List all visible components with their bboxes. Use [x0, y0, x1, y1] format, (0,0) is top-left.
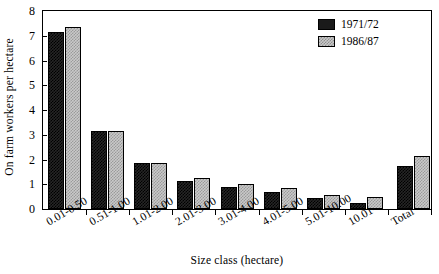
bar-0 — [48, 32, 64, 209]
x-tick-mark — [172, 210, 173, 215]
y-tick-label-text: 5 — [29, 78, 42, 92]
y-tick-label: 7 — [0, 29, 42, 43]
y-tick-label-text: 7 — [29, 29, 42, 43]
x-tick-mark — [302, 210, 303, 215]
y-tick-label: 4 — [0, 103, 42, 117]
x-tick-mark — [388, 210, 389, 215]
bar-0 — [397, 166, 413, 209]
y-tick-label: 3 — [0, 128, 42, 142]
x-tick-mark — [259, 210, 260, 215]
y-tick-label-text: 4 — [29, 103, 42, 117]
x-tick-mark — [215, 210, 216, 215]
x-tick-mark — [431, 210, 432, 215]
y-tick-label: 0 — [0, 202, 42, 216]
bar-0 — [134, 163, 150, 209]
legend-label: 1971/72 — [341, 18, 379, 31]
bar-group — [134, 11, 167, 209]
y-tick-label-text: 3 — [29, 128, 42, 142]
y-tick-label-text: 0 — [29, 202, 42, 216]
bar-0 — [177, 181, 193, 209]
y-tick-label-text: 8 — [29, 4, 42, 18]
legend: 1971/721986/87 — [318, 17, 379, 51]
bar-group — [48, 11, 81, 209]
y-tick-label-text: 2 — [29, 153, 42, 167]
y-tick-label: 5 — [0, 78, 42, 92]
y-tick-label-text: 1 — [29, 177, 42, 191]
bar-group — [221, 11, 254, 209]
bar-chart: On farm workers per hectare 012345678 0.… — [0, 0, 439, 274]
legend-item: 1971/72 — [318, 17, 379, 32]
y-tick-label: 1 — [0, 177, 42, 191]
bar-group — [177, 11, 210, 209]
legend-swatch — [318, 36, 335, 47]
bar-group — [264, 11, 297, 209]
x-tick-mark — [86, 210, 87, 215]
y-tick-label: 6 — [0, 54, 42, 68]
y-tick-label: 8 — [0, 4, 42, 18]
x-tick-mark — [129, 210, 130, 215]
bar-0 — [91, 131, 107, 209]
bar-group — [397, 11, 430, 209]
x-tick-mark — [345, 210, 346, 215]
x-axis-title: Size class (hectare) — [42, 254, 432, 266]
legend-label: 1986/87 — [341, 35, 379, 48]
y-tick-label-text: 6 — [29, 54, 42, 68]
legend-item: 1986/87 — [318, 34, 379, 49]
bar-1 — [65, 27, 81, 209]
legend-swatch — [318, 19, 335, 30]
y-tick-label: 2 — [0, 153, 42, 167]
bar-group — [91, 11, 124, 209]
bar-1 — [414, 156, 430, 209]
